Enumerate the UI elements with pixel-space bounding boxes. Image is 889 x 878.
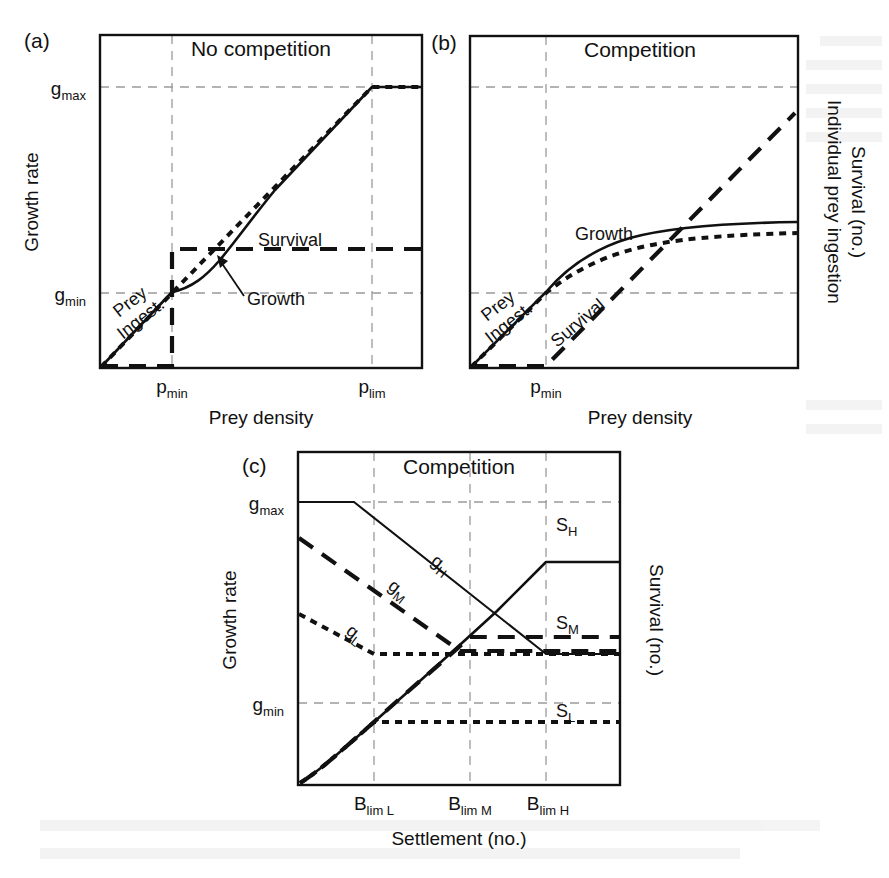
xtick-pmin-sub-b: min [541, 386, 562, 401]
ytick-gmin-sub-c: min [263, 704, 284, 719]
ytick-gmin-sub-a: min [65, 294, 86, 309]
xtick-bliml-base-c: B [354, 793, 367, 814]
label-sh-sub-c: H [568, 524, 577, 539]
panel-c-letter: (c) [242, 454, 267, 477]
label-sm-sub-c: M [568, 622, 579, 637]
panel-a-title: No competition [191, 37, 331, 60]
ytick-gmax-sub-c: max [259, 503, 284, 518]
figure-background [0, 0, 889, 878]
xtick-pmin-sub-a: min [167, 386, 188, 401]
label-sh-base-c: S [556, 515, 568, 535]
label-sl-base-c: S [556, 701, 568, 721]
label-sm-base-c: S [556, 613, 568, 633]
ytick-gmin-base-a: g [54, 284, 65, 305]
panel-b-right-axis-label-line2: Survival (no.) [848, 146, 869, 258]
xtick-blimh-base-c: B [527, 793, 540, 814]
xtick-pmin-base-b: p [530, 376, 541, 397]
panel-a-y-axis-label: Growth rate [21, 152, 42, 251]
figure-root: No competition (a) gmax gmin pmin plim G… [0, 0, 889, 878]
scientific-figure: No competition (a) gmax gmin pmin plim G… [0, 0, 889, 878]
ytick-gmax-sub-a: max [61, 88, 86, 103]
ytick-gmin-base-c: g [252, 694, 263, 715]
ytick-gmax-base-a: g [51, 78, 62, 99]
label-growth-a: Growth [247, 289, 305, 309]
panel-b-right-axis-label-line1: Individual prey ingestion [824, 100, 845, 304]
xtick-pmin-base-a: p [156, 376, 167, 397]
xtick-blimm-sub-c: lim M [461, 803, 492, 818]
panel-b-letter: (b) [431, 31, 457, 54]
panel-c-title: Competition [403, 455, 515, 478]
label-growth-b: Growth [575, 224, 633, 244]
xtick-plim-base-a: p [358, 376, 369, 397]
panel-b-title: Competition [584, 38, 696, 61]
panel-b-x-axis-label: Prey density [588, 407, 693, 428]
xtick-blimh-sub-c: lim H [540, 803, 570, 818]
xtick-blimm-base-c: B [448, 793, 461, 814]
label-survival-a: Survival [258, 230, 322, 250]
panel-a-x-axis-label: Prey density [209, 407, 314, 428]
ytick-gmax-base-c: g [249, 493, 260, 514]
xtick-bliml-sub-c: lim L [367, 803, 394, 818]
panel-a-letter: (a) [24, 29, 50, 52]
panel-c-x-axis-label: Settlement (no.) [391, 828, 526, 849]
panel-c-y-axis-label: Growth rate [219, 570, 240, 669]
xtick-plim-sub-a: lim [369, 386, 386, 401]
panel-c-right-axis-label: Survival (no.) [646, 564, 667, 676]
label-sl-sub-c: L [568, 710, 575, 725]
